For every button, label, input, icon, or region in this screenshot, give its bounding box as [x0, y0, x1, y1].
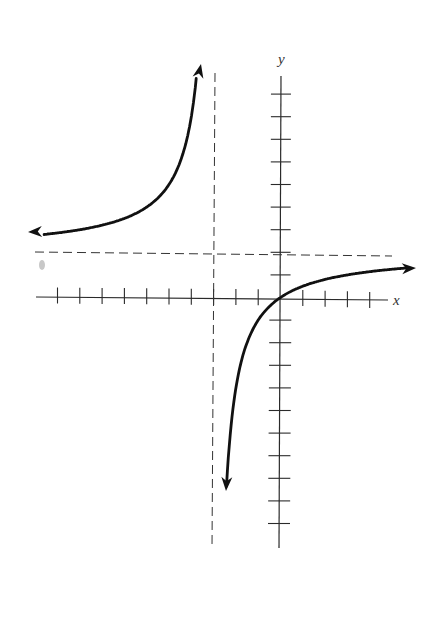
- vertical-asymptote: [212, 73, 215, 548]
- left-branch-curve: [44, 79, 196, 235]
- x-axis-label: x: [392, 292, 400, 308]
- x-axis: [36, 297, 388, 300]
- y-axis-label: y: [276, 51, 285, 67]
- rational-function-graph: x y: [0, 0, 443, 617]
- scan-smudge: [39, 260, 45, 270]
- y-axis: [279, 76, 281, 548]
- arrow-up-icon: [193, 64, 204, 79]
- axis-ticks: [58, 94, 370, 523]
- arrow-left-icon: [28, 226, 42, 237]
- right-branch-curve: [227, 268, 408, 486]
